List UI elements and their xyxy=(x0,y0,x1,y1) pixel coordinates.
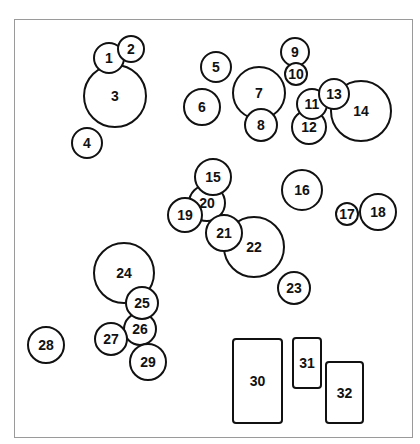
circle-label: 12 xyxy=(301,119,317,135)
rect-label: 32 xyxy=(337,385,353,401)
circle-label: 8 xyxy=(257,117,265,133)
rect-node-30: 30 xyxy=(233,339,282,423)
circle-label: 7 xyxy=(255,85,263,101)
circle-label: 9 xyxy=(291,44,299,60)
circle-label: 22 xyxy=(246,239,262,255)
rect-label: 31 xyxy=(299,355,315,371)
circle-label: 10 xyxy=(288,66,304,82)
circle-label: 14 xyxy=(353,103,369,119)
circle-label: 2 xyxy=(127,41,135,57)
circle-label: 4 xyxy=(83,135,91,151)
circle-label: 21 xyxy=(216,225,232,241)
circle-label: 19 xyxy=(177,207,193,223)
floor-plan-diagram: 3124567891412101113161718222015192123242… xyxy=(0,0,420,444)
circle-label: 27 xyxy=(103,331,119,347)
rect-node-32: 32 xyxy=(326,362,363,423)
circle-label: 26 xyxy=(132,321,148,337)
circle-label: 6 xyxy=(198,99,206,115)
circle-label: 28 xyxy=(38,337,54,353)
circle-label: 17 xyxy=(339,206,355,222)
circle-label: 5 xyxy=(212,59,220,75)
circle-label: 18 xyxy=(370,204,386,220)
circle-label: 23 xyxy=(286,280,302,296)
rect-node-31: 31 xyxy=(293,338,321,388)
circle-label: 29 xyxy=(140,354,156,370)
circle-label: 11 xyxy=(305,96,320,112)
circle-label: 25 xyxy=(134,295,150,311)
circle-label: 15 xyxy=(205,169,221,185)
rect-label: 30 xyxy=(250,373,266,389)
circle-label: 16 xyxy=(294,182,310,198)
circle-label: 20 xyxy=(199,195,215,211)
circle-label: 3 xyxy=(111,88,119,104)
circle-label: 1 xyxy=(105,50,113,66)
circle-label: 13 xyxy=(326,86,342,102)
circle-label: 24 xyxy=(116,265,132,281)
